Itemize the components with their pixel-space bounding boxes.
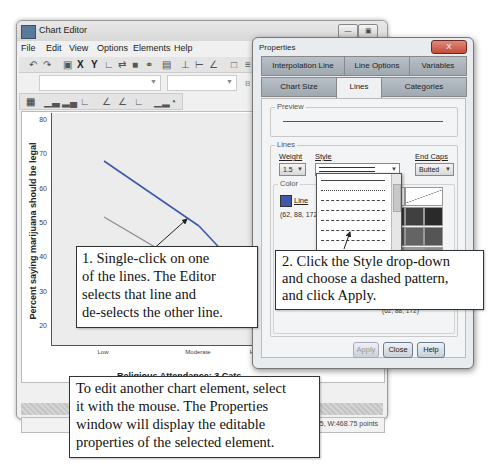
callout-line: To edit another chart element, select bbox=[76, 379, 313, 397]
callout-line: 1. Single-click on one bbox=[82, 249, 252, 267]
callout-bottom: To edit another chart element, select it… bbox=[69, 376, 320, 458]
callout-line: selects that line and bbox=[82, 285, 252, 303]
callout-line: 2. Click the Style drop-down bbox=[282, 253, 477, 270]
callout-line: properties of the selected element. bbox=[76, 433, 313, 451]
callout-line: window will display the editable bbox=[76, 415, 313, 433]
callout-line: de-selects the other line. bbox=[82, 303, 252, 321]
callout-step-2: 2. Click the Style drop-down and choose … bbox=[275, 250, 484, 310]
callout-line: and choose a dashed pattern, bbox=[282, 270, 477, 287]
callout-step-1: 1. Single-click on one of the lines. The… bbox=[76, 246, 258, 328]
callout-line: of the lines. The Editor bbox=[82, 267, 252, 285]
callout-line: it with the mouse. The Properties bbox=[76, 397, 313, 415]
callout-line: and click Apply. bbox=[282, 287, 477, 304]
